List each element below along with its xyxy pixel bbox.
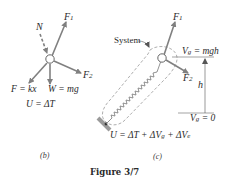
label-potential-bottom: Vg = 0 [190,114,215,124]
equation-c: U = ΔT + ΔVg + ΔVe [110,131,190,141]
particle-b [46,55,54,63]
label-f1-b: F1 [64,12,74,22]
label-system: System [114,36,141,45]
potential-top-rhs: = mgh [191,46,219,56]
equation-c-part-b: + ΔV [165,130,188,140]
ground-support [98,118,110,130]
label-f1-c-sub: 1 [179,14,183,22]
label-f2-b: F2 [83,70,93,80]
label-potential-top: Vg = mgh [182,47,219,57]
label-height: h [198,80,203,90]
normal-force-arrow [40,34,47,53]
spring [106,58,162,124]
panel-label-c: (c) [153,153,162,161]
label-f1-b-sub: 1 [70,14,74,22]
label-f2-c: F2 [183,73,193,83]
potential-bottom-rhs: = 0 [199,113,215,123]
figure-caption: Figure 3/7 [90,168,139,177]
f1-arrow-b [52,22,66,56]
label-weight: W = mg [48,85,79,95]
equation-b: U = ΔT [26,100,55,110]
label-f2-c-sub: 2 [189,75,193,83]
label-n: N [36,22,43,32]
particle-c [158,54,166,62]
label-spring-force: F = kx [11,85,36,95]
equation-c-sub-e: e [187,132,190,140]
label-f1-c: F1 [173,12,183,22]
label-f2-b-sub: 2 [89,72,93,80]
panel-label-b: (b) [40,152,49,160]
spring-force-arrow [29,63,47,83]
f1-arrow-c [164,22,175,55]
equation-c-part-a: U = ΔT + ΔV [110,130,161,140]
f2-arrow-b [54,61,81,73]
